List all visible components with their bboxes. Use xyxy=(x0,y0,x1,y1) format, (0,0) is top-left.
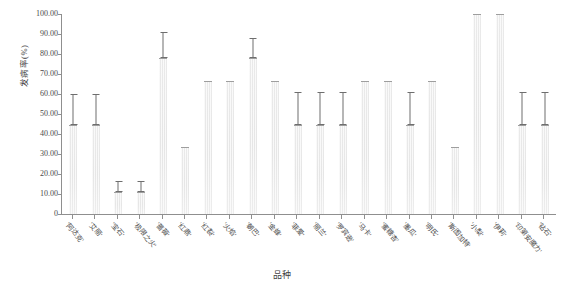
x-axis-category-label: '菲爱' xyxy=(289,221,306,239)
y-axis-tick-label: 40.00 xyxy=(14,130,58,138)
bar-slot xyxy=(376,14,398,214)
bar xyxy=(316,125,324,214)
x-axis-category-labels: '阿达克''艾丽''宝石''极限之火''蔷薇''红鼎''红裂''火焰''朝巴''… xyxy=(61,219,555,271)
y-axis-tick-mark xyxy=(58,34,62,35)
x-label-slot: '红裂' xyxy=(196,219,218,271)
bar-slot xyxy=(174,14,196,214)
bar xyxy=(473,14,481,214)
bar-slot xyxy=(219,14,241,214)
bar-slot xyxy=(331,14,353,214)
x-label-slot: '红鼎' xyxy=(173,219,195,271)
error-bar xyxy=(252,38,253,58)
bar-slot xyxy=(107,14,129,214)
bar xyxy=(384,81,392,214)
x-label-slot: '丽兰' xyxy=(308,219,330,271)
bar-slot xyxy=(62,14,84,214)
bar-slot xyxy=(264,14,286,214)
y-axis-tick-mark xyxy=(58,54,62,55)
x-label-slot: '金蜂' xyxy=(263,219,285,271)
bar-slot xyxy=(84,14,106,214)
bar-slot xyxy=(421,14,443,214)
error-bar xyxy=(297,92,298,125)
y-axis-tick-mark xyxy=(58,134,62,135)
bar xyxy=(159,58,167,214)
y-axis-tick-label: 90.00 xyxy=(14,30,58,38)
x-axis-category-label: '蜜糖杏' xyxy=(378,221,399,244)
y-axis-tick-mark xyxy=(58,14,62,15)
x-axis-category-label: '蔷薇' xyxy=(154,221,171,239)
bar xyxy=(496,14,504,214)
x-label-slot: '钻石' xyxy=(533,219,555,271)
y-axis-tick-mark xyxy=(58,154,62,155)
x-label-slot: '墨瓜' xyxy=(398,219,420,271)
bar-slot xyxy=(129,14,151,214)
y-axis-tick-label: 50.00 xyxy=(14,110,58,118)
x-label-slot: '斯图加特' xyxy=(443,219,465,271)
x-label-slot: '罗宾逊' xyxy=(330,219,352,271)
bar xyxy=(181,147,189,214)
x-axis-category-label: '红鼎' xyxy=(176,221,193,239)
bar-slot xyxy=(242,14,264,214)
x-label-slot: '伊莉' xyxy=(488,219,510,271)
y-axis-tick-mark xyxy=(58,174,62,175)
y-axis-tick-label: 0 xyxy=(14,210,58,218)
bar-slot xyxy=(489,14,511,214)
bar-slot xyxy=(511,14,533,214)
x-axis-category-label: '朝巴' xyxy=(244,221,261,239)
x-axis-category-label: '丽兰' xyxy=(311,221,328,239)
error-bar xyxy=(320,92,321,125)
x-axis-category-label: '马卡' xyxy=(356,221,373,239)
x-label-slot: '蜜糖杏' xyxy=(375,219,397,271)
error-bar xyxy=(118,181,119,192)
bar-series xyxy=(62,14,556,214)
bar xyxy=(69,125,77,214)
bar xyxy=(518,125,526,214)
error-bar xyxy=(410,92,411,125)
bar-slot xyxy=(444,14,466,214)
bar xyxy=(361,81,369,214)
bar xyxy=(92,125,100,214)
y-axis-tick-mark xyxy=(58,94,62,95)
error-bar xyxy=(140,181,141,192)
x-axis-category-label: '阿达克' xyxy=(64,221,85,244)
bar-slot xyxy=(534,14,556,214)
bar xyxy=(406,125,414,214)
error-bar xyxy=(544,92,545,125)
y-axis-tick-label: 80.00 xyxy=(14,50,58,58)
bar-slot xyxy=(152,14,174,214)
y-axis-tick-mark xyxy=(58,194,62,195)
bar xyxy=(137,192,145,214)
bar-slot xyxy=(466,14,488,214)
x-axis-category-label: '小梨' xyxy=(468,221,485,239)
x-axis-category-label: '红裂' xyxy=(199,221,216,239)
y-axis-tick-label: 60.00 xyxy=(14,90,58,98)
x-axis-category-label: '金蜂' xyxy=(266,221,283,239)
bar-chart-figure: 发病率(%) 100.0090.0080.0070.0060.0050.0040… xyxy=(0,0,564,290)
error-bar xyxy=(522,92,523,125)
x-label-slot: '马卡' xyxy=(353,219,375,271)
x-axis-category-label: '墨瓜' xyxy=(401,221,418,239)
x-axis-category-label: '钻石' xyxy=(536,221,553,239)
y-axis-tick-label: 30.00 xyxy=(14,150,58,158)
bar xyxy=(339,125,347,214)
y-axis-tick-label: 20.00 xyxy=(14,170,58,178)
y-axis-tick-label: 70.00 xyxy=(14,70,58,78)
bar-slot xyxy=(197,14,219,214)
bar-slot xyxy=(309,14,331,214)
x-label-slot: '菲爱' xyxy=(286,219,308,271)
error-bar xyxy=(73,94,74,125)
bar-slot xyxy=(399,14,421,214)
y-axis-tick-label: 10.00 xyxy=(14,190,58,198)
bar-slot xyxy=(287,14,309,214)
x-label-slot: '宝石' xyxy=(106,219,128,271)
y-axis-tick-labels: 100.0090.0080.0070.0060.0050.0040.0030.0… xyxy=(14,0,58,230)
x-label-slot: '印第安魔力' xyxy=(510,219,532,271)
x-axis-category-label: '伊莉' xyxy=(491,221,508,239)
bar xyxy=(114,192,122,214)
y-axis-tick-mark xyxy=(58,114,62,115)
bar xyxy=(541,125,549,214)
x-axis-category-label: '罗宾逊' xyxy=(334,221,355,244)
x-label-slot: '火焰' xyxy=(218,219,240,271)
x-label-slot: '极限之火' xyxy=(128,219,150,271)
x-axis-category-label: '宝石' xyxy=(109,221,126,239)
